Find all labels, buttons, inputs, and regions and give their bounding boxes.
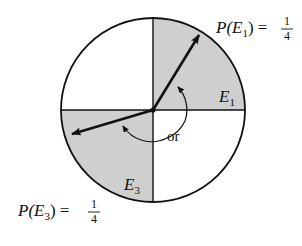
svg-text:4: 4 (91, 212, 97, 226)
probability-e1-label: P(E1) = 1 4 (215, 14, 293, 43)
probability-e3-label: P(E3) = 1 4 (17, 197, 100, 226)
spinner-diagram: or E1 E3 P(E1) = 1 4 P(E3) = 1 4 (0, 0, 302, 246)
spinner-pivot (150, 107, 155, 112)
svg-text:P(E1) =: P(E1) = (215, 18, 267, 39)
or-label: or (167, 128, 180, 144)
svg-text:4: 4 (284, 29, 290, 43)
svg-text:1: 1 (91, 197, 97, 211)
svg-text:1: 1 (284, 14, 290, 28)
svg-text:P(E3) =: P(E3) = (17, 201, 69, 222)
